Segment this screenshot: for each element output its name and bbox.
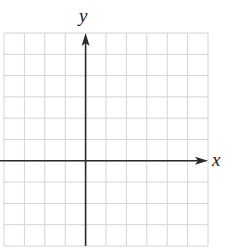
y-axis-label: y xyxy=(79,6,87,25)
x-axis-label: x xyxy=(212,150,220,169)
coordinate-grid xyxy=(0,0,233,252)
